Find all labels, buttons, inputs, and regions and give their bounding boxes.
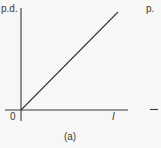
y-axis-label: p.d. [1,4,18,14]
data-line-proportional [21,12,118,110]
figure-caption: (a) [0,132,140,142]
origin-label: 0 [10,112,16,122]
neighbor-figure-label: p. [146,4,154,14]
x-axis-label: I [112,112,115,122]
plot-area [0,0,161,148]
figure-panel-a: p.d. 0 I p. (a) [0,0,161,148]
